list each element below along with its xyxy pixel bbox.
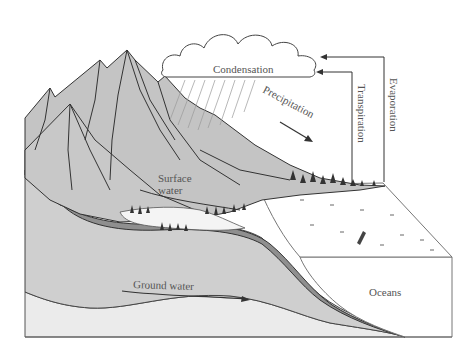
label-transpiration: Transpiration [356,84,368,143]
evaporation-arrow [322,57,384,182]
precipitation-arrow [280,122,310,140]
transpiration-arrowhead [316,69,323,75]
evaporation-arrowhead [320,54,327,60]
label-oceans: Oceans [369,286,401,298]
label-precipitation: Precipitation [261,83,317,120]
label-surface-water-1: Surface [158,172,192,184]
label-condensation: Condensation [213,63,274,75]
label-ground-water: Ground water [133,278,195,292]
label-evaporation: Evaporation [388,78,400,132]
label-surface-water-2: water [158,184,183,196]
water-cycle-diagram: Condensation Precipitation Transpiration… [0,0,468,358]
precipitation-arrowhead [304,135,313,142]
transpiration-arrow [318,72,352,185]
